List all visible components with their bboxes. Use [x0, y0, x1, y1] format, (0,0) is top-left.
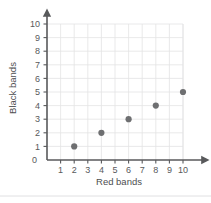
- data-point: [180, 89, 186, 95]
- x-tick-label-9: 9: [167, 165, 172, 175]
- x-tick-label-8: 8: [153, 165, 158, 175]
- x-tick-label-6: 6: [126, 165, 131, 175]
- x-axis-tick-labels: 12345678910: [58, 165, 188, 175]
- x-tick-label-5: 5: [112, 165, 117, 175]
- y-tick-label-5: 5: [35, 87, 40, 97]
- y-tick-label-8: 8: [35, 46, 40, 56]
- y-axis-tick-labels: 12345678910: [30, 19, 40, 151]
- x-tick-label-2: 2: [72, 165, 77, 175]
- data-point: [153, 103, 159, 109]
- x-tick-label-10: 10: [178, 165, 188, 175]
- x-tick-label-1: 1: [58, 165, 63, 175]
- scatter-plot-figure: 12345678910 12345678910 0 Red bands Blac…: [0, 0, 211, 203]
- y-tick-label-10: 10: [30, 19, 40, 29]
- data-point: [71, 143, 77, 149]
- data-point: [126, 116, 132, 122]
- y-tick-label-7: 7: [35, 60, 40, 70]
- x-tick-label-4: 4: [99, 165, 104, 175]
- x-tick-label-3: 3: [85, 165, 90, 175]
- origin-tick-label: 0: [32, 155, 37, 165]
- y-tick-label-2: 2: [35, 128, 40, 138]
- chart-canvas: 12345678910 12345678910 0 Red bands Blac…: [0, 0, 211, 203]
- y-tick-label-9: 9: [35, 33, 40, 43]
- x-tick-label-7: 7: [140, 165, 145, 175]
- y-tick-label-6: 6: [35, 74, 40, 84]
- data-point: [98, 130, 104, 136]
- y-axis-title: Black bands: [7, 62, 18, 114]
- axis-tick-marks: [44, 24, 184, 164]
- y-tick-label-4: 4: [35, 101, 40, 111]
- x-axis-title: Red bands: [96, 176, 142, 187]
- y-tick-label-3: 3: [35, 114, 40, 124]
- grid-lines: [47, 24, 183, 160]
- y-tick-label-1: 1: [35, 142, 40, 152]
